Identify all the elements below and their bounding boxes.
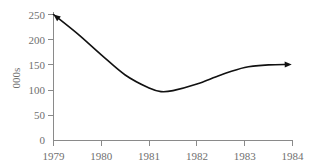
y-tick-label-0: 0 [40, 134, 46, 146]
x-tick-label-1983: 1983 [234, 150, 257, 162]
x-tick-label-1982: 1982 [186, 150, 208, 162]
y-axis-title: 000s [10, 68, 22, 89]
chart-canvas: 250 200 150 100 50 0 000s 1979 1980 1981… [0, 0, 320, 168]
y-tick-label-200: 200 [29, 34, 46, 46]
x-tick-label-1980: 1980 [90, 150, 113, 162]
x-tick-label-1979: 1979 [43, 150, 66, 162]
x-tick-label-1981: 1981 [138, 150, 160, 162]
end-arrow-icon [285, 62, 292, 68]
y-tick-label-150: 150 [29, 59, 46, 71]
line-chart: 250 200 150 100 50 0 000s 1979 1980 1981… [0, 0, 320, 168]
y-tick-label-100: 100 [29, 84, 46, 96]
x-tick-label-1984: 1984 [282, 150, 305, 162]
y-tick-label-250: 250 [29, 9, 46, 21]
trend-curve [54, 15, 288, 92]
y-tick-label-50: 50 [34, 109, 46, 121]
